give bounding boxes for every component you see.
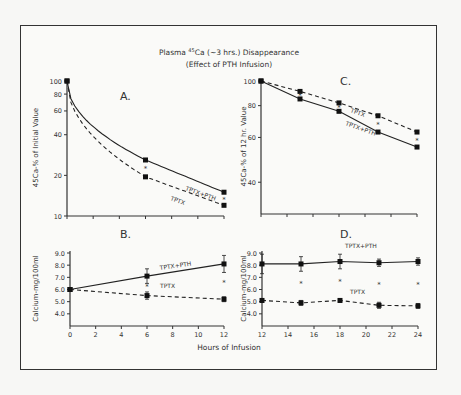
series-label: TPTX+PTH (344, 242, 377, 249)
x-tick-label: 8 (171, 331, 175, 339)
panel-b: 4.05.06.07.08.09.0024681012B.Calcium-mg/… (32, 228, 228, 339)
significance-marker: * (376, 121, 380, 129)
data-point (299, 300, 304, 305)
significance-marker: * (298, 92, 302, 100)
y-tick-label: 10 (54, 213, 62, 221)
significance-marker: * (416, 281, 420, 289)
x-tick-label: 4 (119, 331, 123, 339)
panel-a: 1020406080100A.45Ca-% of Initial Value**… (32, 78, 227, 221)
y-axis-label: Calcium-mg/100ml (240, 255, 248, 321)
figure-title-line1: Plasma 45Ca (~3 hrs.) Disappearance (159, 47, 299, 57)
data-point (222, 190, 227, 195)
y-tick-label: 100 (50, 78, 62, 86)
y-tick-label: 4.0 (55, 310, 65, 318)
y-tick-label: 7.0 (55, 274, 65, 282)
data-point (415, 130, 420, 135)
y-tick-label: 60 (54, 107, 62, 115)
data-point (377, 260, 382, 265)
y-tick-label: 40 (54, 131, 62, 139)
x-axis-label: Hours of Infusion (197, 343, 261, 352)
y-tick-label: 8.0 (55, 262, 65, 270)
y-tick-label: 9.0 (247, 250, 257, 258)
data-point (143, 157, 148, 162)
data-point (338, 259, 343, 264)
data-point (377, 303, 382, 308)
significance-marker: * (299, 280, 303, 288)
x-tick-label: 18 (336, 331, 344, 339)
y-tick-label: 4.0 (247, 310, 257, 318)
figure-chart: Plasma 45Ca (~3 hrs.) Disappearance (Eff… (0, 0, 461, 395)
data-point (415, 145, 420, 150)
y-tick-label: 5.0 (55, 298, 65, 306)
x-tick-label: 2 (94, 331, 98, 339)
data-point (376, 113, 381, 118)
y-tick-label: 80 (54, 91, 62, 99)
panel-letter: B. (120, 228, 131, 241)
data-point (338, 298, 343, 303)
y-tick-label: 5.0 (247, 298, 257, 306)
panel-letter: D. (340, 228, 352, 241)
panel-letter: C. (340, 75, 351, 88)
y-tick-label: 6.0 (55, 286, 65, 294)
data-point (222, 297, 227, 302)
y-axis-label: 45Ca-% of 12 hr. Value (240, 107, 248, 187)
x-tick-label: 14 (284, 331, 292, 339)
significance-marker: * (222, 196, 226, 204)
data-point (260, 261, 265, 266)
significance-marker: * (222, 279, 226, 287)
y-tick-label: 8.0 (247, 262, 257, 270)
significance-marker: * (377, 281, 381, 289)
x-tick-label: 12 (220, 331, 228, 339)
x-tick-label: 10 (194, 331, 202, 339)
data-point (145, 274, 150, 279)
figure-title-line2: (Effect of PTH Infusion) (186, 60, 272, 69)
y-tick-label: 20 (54, 172, 62, 180)
y-tick-label: 80 (248, 102, 256, 110)
significance-marker: * (415, 137, 419, 145)
series-label: TPTX (169, 194, 186, 206)
data-point (416, 259, 421, 264)
x-tick-label: 22 (388, 331, 396, 339)
x-tick-label: 6 (145, 331, 149, 339)
data-point (145, 293, 150, 298)
series-line-tptx-plus-pth (261, 81, 417, 147)
data-point (68, 287, 73, 292)
panel-letter: A. (120, 90, 131, 103)
x-tick-label: 16 (310, 331, 318, 339)
y-axis-label: Calcium-mg/100ml (32, 255, 40, 321)
panel-c: 406080100C.45Ca-% of 12 hr. Value****TPT… (240, 75, 420, 217)
significance-marker: * (145, 283, 149, 291)
data-point (222, 261, 227, 266)
data-point (416, 303, 421, 308)
series-label: TPTX (349, 288, 365, 295)
y-tick-label: 9.0 (55, 250, 65, 258)
y-tick-label: 60 (248, 134, 256, 142)
y-tick-label: 7.0 (247, 274, 257, 282)
data-point (299, 261, 304, 266)
significance-marker: * (144, 165, 148, 173)
y-axis-label: 45Ca-% of Initial Value (32, 108, 40, 187)
data-point (65, 79, 70, 84)
x-tick-label: 12 (258, 331, 266, 339)
x-tick-label: 24 (414, 331, 422, 339)
x-tick-label: 20 (362, 331, 370, 339)
series-line-tptx (67, 81, 224, 205)
data-point (143, 174, 148, 179)
series-label: TPTX+PTH (344, 119, 377, 137)
y-tick-label: 40 (248, 179, 256, 187)
y-tick-label: 100 (244, 78, 256, 86)
x-tick-label: 0 (68, 331, 72, 339)
significance-marker: * (338, 278, 342, 286)
y-tick-label: 6.0 (247, 286, 257, 294)
data-point (259, 79, 264, 84)
significance-marker: * (337, 104, 341, 112)
panel-d: 4.05.06.07.08.09.012141618202224D.Calciu… (240, 228, 422, 339)
data-point (260, 298, 265, 303)
series-label: TPTX (159, 282, 175, 289)
series-label: TPTX (349, 106, 366, 118)
